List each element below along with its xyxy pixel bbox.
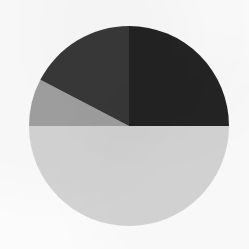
pie-slice-group [29,26,229,226]
pie-chart-figure [0,0,249,249]
pie-chart-svg [0,0,249,249]
pie-slice-2 [29,126,229,226]
pie-slice-1 [129,26,229,126]
